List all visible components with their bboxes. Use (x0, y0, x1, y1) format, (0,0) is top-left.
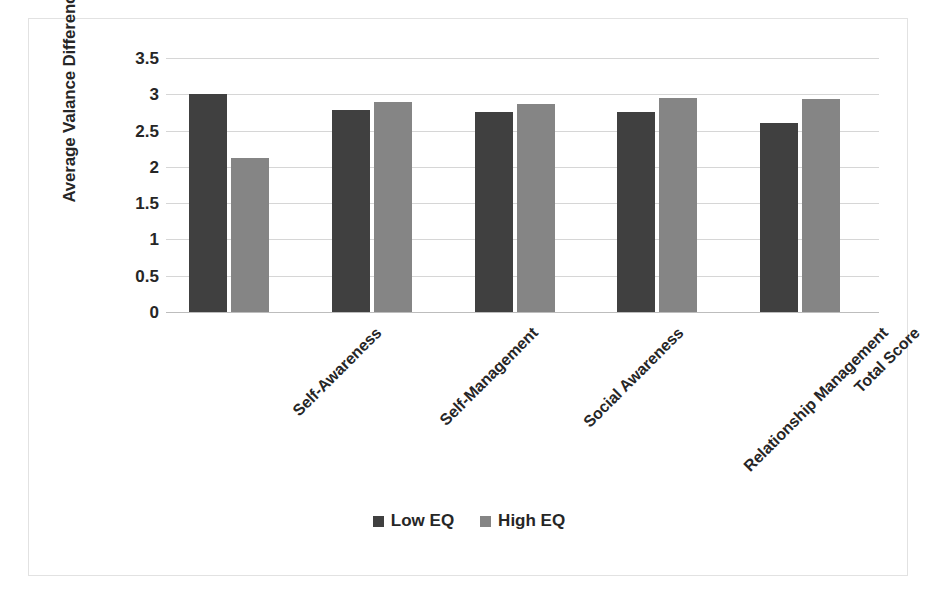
bar-high-eq-social-awareness (517, 104, 555, 312)
bar-low-eq-self-management (332, 110, 370, 312)
bar-high-eq-self-awareness (231, 158, 269, 312)
bars-layer (166, 58, 879, 312)
y-axis-tick-label: 0 (117, 304, 159, 321)
bar-low-eq-relationship-management (617, 112, 655, 312)
legend-item-high-eq[interactable]: High EQ (480, 511, 565, 531)
y-axis-tick-label: 3.5 (117, 50, 159, 67)
legend-label: Low EQ (391, 511, 454, 531)
x-axis-label-self-management: Self-Management (436, 324, 541, 429)
x-axis-label-social-awareness: Social Awareness (580, 324, 687, 431)
legend-label: High EQ (498, 511, 565, 531)
x-axis-category-labels: Self-AwarenessSelf-ManagementSocial Awar… (166, 312, 879, 432)
plot-area (166, 58, 879, 312)
y-axis-title: Average Valance Difference (60, 0, 86, 234)
bar-high-eq-total-score (802, 99, 840, 312)
legend-item-low-eq[interactable]: Low EQ (373, 511, 454, 531)
bar-high-eq-relationship-management (659, 98, 697, 312)
legend-swatch-icon (373, 516, 384, 527)
y-axis-tick-label: 1 (117, 231, 159, 248)
bar-low-eq-self-awareness (189, 94, 227, 312)
y-axis-tick-label: 2 (117, 158, 159, 175)
legend-swatch-icon (480, 516, 491, 527)
y-axis-tick-labels: 3.532.521.510.50 (117, 58, 159, 312)
x-axis-label-self-awareness: Self-Awareness (290, 324, 386, 420)
y-axis-tick-label: 2.5 (117, 122, 159, 139)
bar-low-eq-total-score (760, 123, 798, 312)
y-axis-tick-label: 1.5 (117, 195, 159, 212)
x-axis-label-relationship-management: Relationship Management (740, 324, 891, 475)
bar-high-eq-self-management (374, 102, 412, 312)
chart-legend: Low EQHigh EQ (29, 511, 909, 531)
y-axis-tick-label: 0.5 (117, 267, 159, 284)
y-axis-tick-label: 3 (117, 86, 159, 103)
chart-container: Average Valance Difference 3.532.521.510… (28, 18, 908, 576)
bar-low-eq-social-awareness (475, 112, 513, 312)
